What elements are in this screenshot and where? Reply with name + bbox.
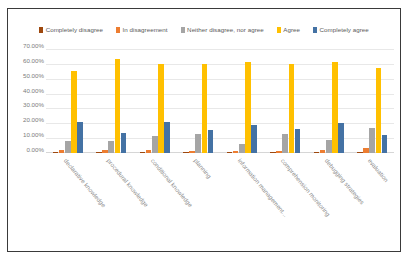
- bar-3[interactable]: [245, 62, 251, 153]
- bar-4[interactable]: [338, 123, 344, 153]
- plot-wrapper: 70.00%60.00%50.00%40.00%30.00%20.00%10.0…: [8, 9, 400, 251]
- bar-0[interactable]: [227, 152, 233, 153]
- x-axis-label-cell: planning: [177, 155, 221, 245]
- bar-group: [307, 49, 351, 153]
- x-axis-label: planning: [193, 157, 213, 179]
- bar-2[interactable]: [195, 134, 201, 153]
- bar-group: [133, 49, 177, 153]
- bar-4[interactable]: [164, 122, 170, 153]
- bar-0[interactable]: [96, 152, 102, 153]
- y-axis-tick: 70.00%: [23, 42, 44, 49]
- bar-4[interactable]: [251, 125, 257, 153]
- bar-1[interactable]: [146, 150, 152, 153]
- y-axis-tick: 20.00%: [23, 116, 44, 123]
- x-axis-label-cell: debugging strategies: [307, 155, 351, 245]
- bar-1[interactable]: [189, 151, 195, 153]
- bar-group: [351, 49, 395, 153]
- bar-3[interactable]: [158, 64, 164, 153]
- bar-1[interactable]: [320, 150, 326, 153]
- y-axis-tick: 50.00%: [23, 71, 44, 78]
- bar-2[interactable]: [282, 134, 288, 153]
- x-axis-label-cell: procedural knowledge: [90, 155, 134, 245]
- bar-group: [177, 49, 221, 153]
- y-axis-tick: 10.00%: [23, 131, 44, 138]
- bar-3[interactable]: [332, 62, 338, 153]
- bar-3[interactable]: [202, 64, 208, 153]
- y-axis-tick: 30.00%: [23, 101, 44, 108]
- bar-3[interactable]: [71, 71, 77, 153]
- x-axis-label-cell: evaluation: [351, 155, 395, 245]
- chart-container: Completely disagree In disagreement Neit…: [7, 8, 401, 252]
- bar-1[interactable]: [363, 148, 369, 153]
- bar-4[interactable]: [77, 122, 83, 153]
- bar-2[interactable]: [108, 141, 114, 153]
- bar-0[interactable]: [140, 152, 146, 153]
- bar-1[interactable]: [59, 150, 65, 153]
- bar-0[interactable]: [183, 152, 189, 153]
- bar-1[interactable]: [233, 151, 239, 153]
- y-axis: 70.00%60.00%50.00%40.00%30.00%20.00%10.0…: [10, 45, 44, 155]
- bar-2[interactable]: [326, 140, 332, 153]
- y-axis-tick: 40.00%: [23, 86, 44, 93]
- bar-group: [90, 49, 134, 153]
- bar-3[interactable]: [115, 59, 121, 153]
- bar-2[interactable]: [239, 144, 245, 153]
- x-axis-label-cell: information management...: [220, 155, 264, 245]
- x-axis-label-cell: conditional knowledge: [133, 155, 177, 245]
- bar-3[interactable]: [376, 68, 382, 153]
- bar-4[interactable]: [208, 130, 214, 153]
- bar-0[interactable]: [314, 152, 320, 153]
- y-axis-tick: 0.00%: [26, 146, 44, 153]
- x-axis-labels: declarative knowledgeprocedural knowledg…: [46, 155, 394, 245]
- bar-0[interactable]: [53, 152, 59, 153]
- bar-groups: [46, 49, 394, 153]
- bar-2[interactable]: [65, 141, 71, 153]
- plot-area: [46, 49, 394, 153]
- bar-group: [220, 49, 264, 153]
- bar-3[interactable]: [289, 64, 295, 153]
- y-axis-tick: 60.00%: [23, 56, 44, 63]
- bar-4[interactable]: [382, 135, 388, 153]
- bar-2[interactable]: [152, 136, 158, 153]
- bar-4[interactable]: [295, 129, 301, 153]
- bar-group: [46, 49, 90, 153]
- x-axis-label-cell: declarative knowledge: [46, 155, 90, 245]
- bar-4[interactable]: [121, 133, 127, 153]
- bar-group: [264, 49, 308, 153]
- bar-0[interactable]: [270, 152, 276, 153]
- bar-0[interactable]: [357, 152, 363, 153]
- bar-1[interactable]: [102, 150, 108, 153]
- bar-2[interactable]: [369, 128, 375, 153]
- bar-1[interactable]: [276, 151, 282, 153]
- x-axis-label-cell: comprehension monitoring: [264, 155, 308, 245]
- x-axis-label: evaluation: [367, 157, 391, 183]
